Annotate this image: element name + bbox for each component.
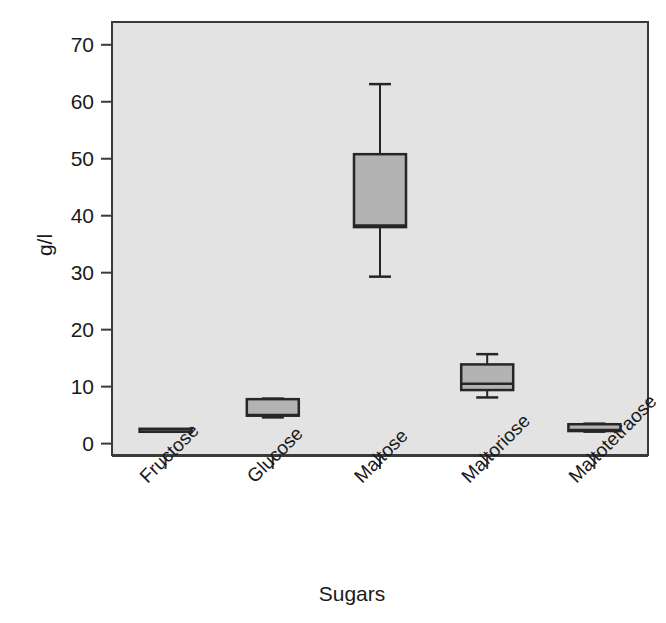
boxplot-box (140, 429, 192, 432)
box-iqr (354, 154, 406, 227)
y-tick-label: 60 (71, 90, 94, 113)
y-axis-title: g/l (33, 234, 56, 256)
boxplot-box (247, 399, 299, 418)
box-iqr (461, 364, 513, 390)
y-axis-ticks: 010203040506070 (71, 33, 112, 455)
boxplot-box (568, 424, 620, 432)
y-tick-label: 10 (71, 375, 94, 398)
y-tick-label: 0 (82, 432, 94, 455)
x-axis-title: Sugars (319, 582, 386, 605)
y-tick-label: 50 (71, 147, 94, 170)
box-iqr (247, 399, 299, 416)
y-tick-label: 40 (71, 204, 94, 227)
boxplot-svg: 010203040506070 g/l FructoseGlucoseMalto… (0, 0, 666, 623)
y-tick-label: 20 (71, 318, 94, 341)
y-tick-label: 70 (71, 33, 94, 56)
boxplot-figure: 010203040506070 g/l FructoseGlucoseMalto… (0, 0, 666, 623)
y-tick-label: 30 (71, 261, 94, 284)
